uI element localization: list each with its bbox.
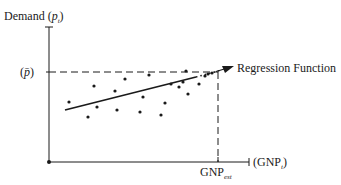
p-bar-label: (p̄): [20, 66, 34, 78]
data-point: [203, 74, 206, 77]
gnp-est-text: GNP: [200, 165, 224, 179]
data-point: [95, 105, 98, 108]
data-point: [113, 89, 116, 92]
data-point: [181, 80, 184, 83]
x-axis-label: (GNPt): [253, 156, 287, 171]
data-point: [138, 110, 141, 113]
y-axis-label-text: Demand: [4, 9, 45, 23]
data-point: [177, 85, 180, 88]
data-point: [206, 72, 209, 75]
p-bar-symbol: p̄: [24, 65, 30, 79]
data-point: [141, 95, 144, 98]
data-point: [92, 84, 95, 87]
data-point: [163, 101, 166, 104]
data-point: [123, 77, 126, 80]
x-axis-label-text: GNP: [257, 155, 281, 169]
diagram-canvas: [0, 0, 341, 185]
data-point: [184, 69, 187, 72]
data-points: [67, 69, 213, 118]
data-point: [197, 82, 200, 85]
data-point: [86, 115, 89, 118]
arrowhead-icon: [222, 66, 234, 73]
gnp-est-label: GNPest: [200, 166, 232, 181]
gnp-est-subscript: est: [224, 173, 232, 181]
data-point: [115, 108, 118, 111]
y-axis-subscript: t: [58, 17, 60, 25]
x-axis-subscript: t: [281, 163, 283, 171]
data-point: [67, 100, 70, 103]
data-point: [186, 92, 189, 95]
data-point: [147, 73, 150, 76]
data-point: [169, 82, 172, 85]
regression-line: [65, 77, 196, 110]
regression-function-label: Regression Function: [237, 62, 336, 74]
origin-dot: [47, 160, 51, 164]
data-point: [159, 113, 162, 116]
y-axis-label: Demand (pt): [4, 10, 64, 25]
data-point: [210, 71, 213, 74]
